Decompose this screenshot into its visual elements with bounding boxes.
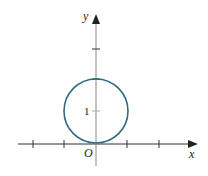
x-axis-label: x	[188, 147, 195, 161]
coordinate-diagram: y x O 1	[0, 0, 208, 176]
y-axis-arrow-icon	[92, 14, 100, 24]
y-tick-label: 1	[84, 105, 90, 117]
y-axis-label: y	[82, 9, 89, 23]
origin-label: O	[84, 146, 93, 160]
